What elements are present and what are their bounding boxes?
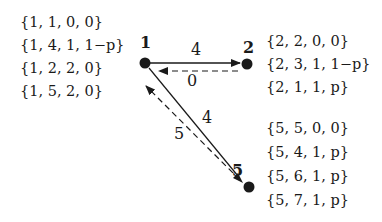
- node-1-set: {1, 2, 2, 0}: [20, 60, 103, 76]
- node-5-set: {5, 4, 1, p}: [266, 144, 349, 160]
- edge-label-2-1: 0: [187, 71, 197, 90]
- node-2: [242, 59, 253, 70]
- node-2-sets: {2, 2, 0, 0} {2, 3, 1, 1−p} {2, 1, 1, p}: [266, 33, 370, 95]
- node-1: [140, 58, 151, 69]
- graph-diagram: 4 0 4 5 1 2 5 {1, 1, 0, 0} {1, 4, 1, 1−p…: [0, 0, 382, 222]
- edge-label-5-1: 5: [174, 124, 184, 143]
- edge-5-to-1: [146, 86, 240, 180]
- node-2-set: {2, 2, 0, 0}: [266, 33, 349, 49]
- node-5-set: {5, 5, 0, 0}: [266, 120, 349, 136]
- node-1-set: {1, 1, 0, 0}: [20, 14, 103, 30]
- node-5-set: {5, 6, 1, p}: [266, 168, 349, 184]
- edge-label-1-2: 4: [191, 40, 201, 59]
- node-5-set: {5, 7, 1, p}: [266, 192, 349, 208]
- node-5: [244, 182, 255, 193]
- node-1-set: {1, 5, 2, 0}: [20, 83, 103, 99]
- node-1-label: 1: [140, 33, 151, 52]
- node-2-set: {2, 1, 1, p}: [266, 79, 349, 95]
- node-2-set: {2, 3, 1, 1−p}: [266, 56, 370, 72]
- node-1-sets: {1, 1, 0, 0} {1, 4, 1, 1−p} {1, 2, 2, 0}…: [20, 14, 124, 99]
- node-1-set: {1, 4, 1, 1−p}: [20, 37, 124, 53]
- node-5-sets: {5, 5, 0, 0} {5, 4, 1, p} {5, 6, 1, p} {…: [266, 120, 349, 208]
- edge-label-1-5: 4: [202, 108, 212, 127]
- node-5-label: 5: [232, 161, 243, 180]
- node-2-label: 2: [243, 38, 254, 57]
